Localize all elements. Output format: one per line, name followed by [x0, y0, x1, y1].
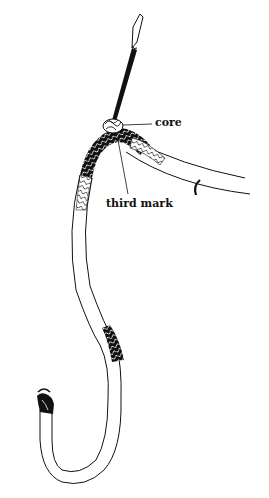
core-label: core — [155, 117, 182, 128]
core-knot — [103, 119, 123, 133]
third-mark-leader-line — [118, 140, 128, 194]
braided-section-middle — [102, 325, 124, 362]
fid-tool — [111, 14, 143, 125]
core-leader-line — [123, 124, 152, 125]
rope-splice-illustration — [0, 0, 269, 498]
tail-whipping-mark — [195, 180, 200, 195]
third-mark-label: third mark — [106, 198, 173, 209]
